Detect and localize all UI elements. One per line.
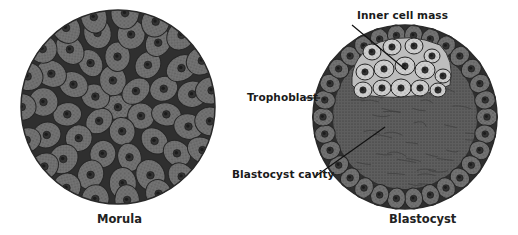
inner-cell-mass [352, 38, 451, 98]
blastocyst [313, 24, 498, 210]
embryo-diagram: Inner cell mass Trophoblast Blastocyst c… [0, 0, 518, 235]
inner-cell-mass-label: Inner cell mass [357, 9, 448, 21]
blastocyst-cavity-label: Blastocyst cavity [232, 168, 334, 180]
trophoblast-label: Trophoblast [247, 91, 318, 103]
morula-caption: Morula [97, 212, 142, 226]
morula [7, 0, 230, 216]
blastocyst-caption: Blastocyst [389, 212, 456, 226]
diagram-canvas [0, 0, 518, 235]
